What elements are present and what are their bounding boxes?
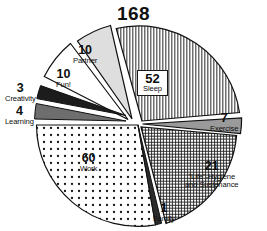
pie-slice-sleep [116,26,239,121]
slice-label-fun: 10 Fun! [56,68,71,88]
pie-chart-figure: 168 [0,0,267,231]
slice-name-partner: Partner [73,57,97,65]
slice-value-exercise: 7 [210,112,238,125]
slice-value-family: 1 [153,202,175,215]
slice-name-fun: Fun! [56,81,71,89]
slice-name-exercise: Exercise [210,125,238,133]
slice-value-learning: 4 [5,105,34,118]
slice-label-exercise: 7 Exercise [210,112,238,132]
slice-label-work: 60 Work [80,152,97,172]
slice-value-work: 60 [80,152,97,165]
slice-label-life-hygiene: 21 "Life"-Hygiene and Sustenance [185,160,239,190]
pie-slice-work [37,125,156,226]
slice-value-partner: 10 [73,44,97,57]
slice-name-work: Work [80,165,97,173]
slice-value-fun: 10 [56,68,71,81]
slice-name-sleep: Sleep [143,85,162,93]
slice-name-family: Family [153,215,175,223]
slice-name-creativity: Creativity [5,95,36,103]
slice-value-creativity: 3 [5,82,36,95]
slice-value-sleep: 52 [143,72,162,85]
slice-label-learning: 4 Learning [5,105,34,125]
slice-label-sleep: 52 Sleep [137,70,168,96]
slice-label-family: 1 Family [153,202,175,222]
slice-label-partner: 10 Partner [73,44,97,64]
slice-name-learning: Learning [5,118,34,126]
slice-name-life-hygiene-line2: and Sustenance [185,181,239,190]
slice-label-creativity: 3 Creativity [5,82,36,102]
slice-value-life-hygiene: 21 [185,160,239,173]
